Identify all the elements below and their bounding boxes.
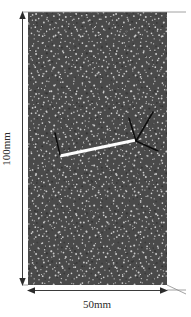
vertical-dimension <box>19 11 25 286</box>
figure-root: 100mm 50mm <box>0 0 191 317</box>
height-dimension-label: 100mm <box>0 132 12 166</box>
specimen-figure: 100mm 50mm <box>0 0 191 317</box>
horizontal-dimension <box>27 287 168 293</box>
width-dimension-label: 50mm <box>83 298 112 310</box>
